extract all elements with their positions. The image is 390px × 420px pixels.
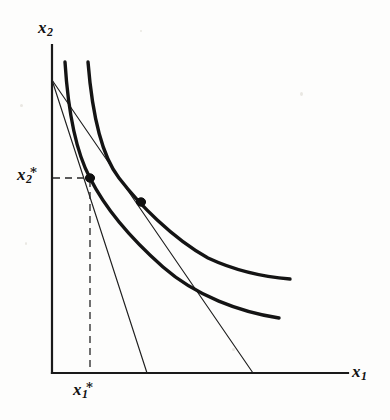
indifference-curve-figure: x2 x1 x2∗ x1∗ (0, 0, 390, 420)
x-axis-label: x1 (352, 362, 367, 384)
x-optimum-label-base: x (73, 380, 82, 399)
x-axis-label-subscript: 1 (361, 369, 367, 383)
x-optimum-label-star: ∗ (85, 377, 94, 392)
y-optimum-label-base: x (17, 165, 26, 184)
x-optimum-label: x1∗ (73, 377, 94, 402)
diagram-canvas (0, 0, 390, 420)
optimum-point-1 (85, 174, 94, 182)
y-optimum-label: x2∗ (17, 162, 38, 187)
budget-line-steep (52, 80, 147, 373)
indifference-curve-inner (65, 62, 279, 318)
y-axis-label-base: x (38, 18, 47, 37)
optimum-point-2 (136, 198, 145, 206)
x-axis-label-base: x (352, 362, 361, 381)
y-axis-label-subscript: 2 (47, 25, 53, 39)
y-optimum-label-star: ∗ (29, 162, 38, 177)
indifference-curve-outer (88, 62, 290, 279)
y-axis-label: x2 (38, 18, 53, 40)
budget-line-flat (52, 80, 253, 373)
